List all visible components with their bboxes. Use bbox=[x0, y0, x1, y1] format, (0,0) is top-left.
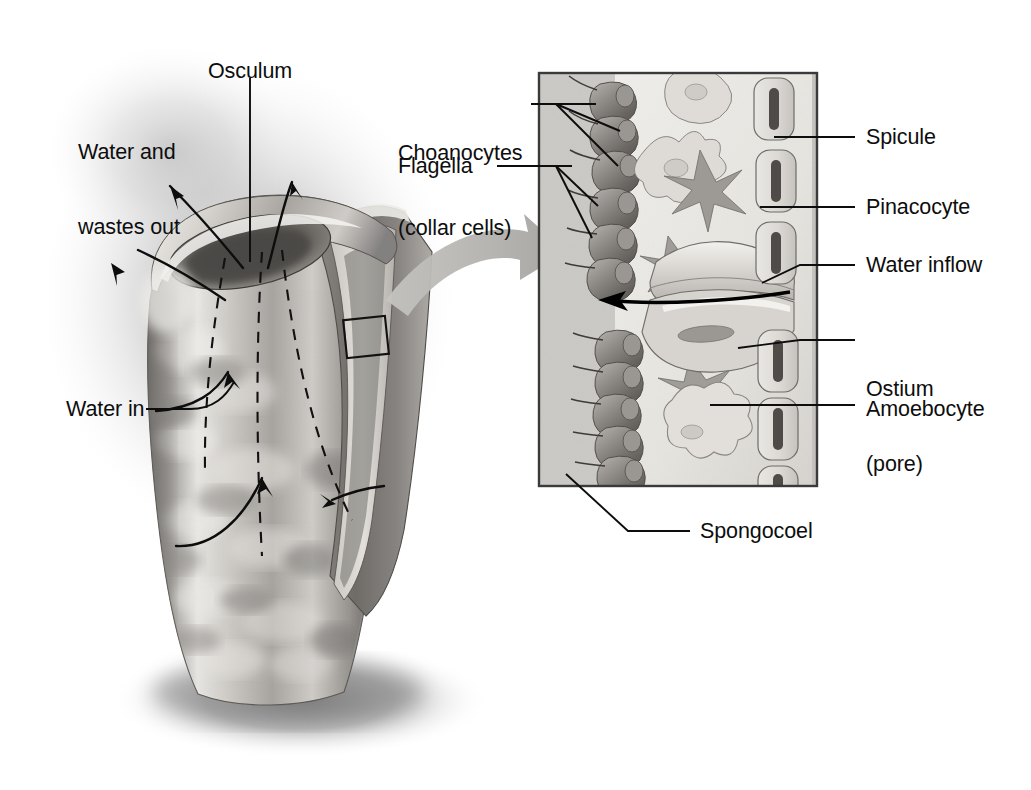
label-ostium-line2: (pore) bbox=[866, 452, 934, 477]
label-water-and-wastes-out: Water and wastes out bbox=[78, 90, 180, 290]
pinacocyte-cell bbox=[758, 398, 798, 460]
label-water-inflow: Water inflow bbox=[866, 252, 982, 278]
label-amoebocyte: Amoebocyte bbox=[866, 396, 985, 422]
label-water-and-wastes-out-line2: wastes out bbox=[78, 215, 180, 240]
label-pinacocyte: Pinacocyte bbox=[866, 194, 970, 220]
label-water-in: Water in bbox=[66, 396, 144, 422]
label-choanocytes: Choanocytes (collar cells) bbox=[398, 91, 522, 291]
spicule bbox=[773, 340, 783, 382]
figure-canvas: Osculum Water and wastes out Water in Ch… bbox=[0, 0, 1031, 790]
spicule bbox=[771, 232, 781, 274]
label-ostium: Ostium (pore) bbox=[866, 327, 934, 527]
label-osculum: Osculum bbox=[208, 58, 292, 84]
label-flagella: Flagella bbox=[398, 153, 473, 179]
pinacocyte-cell bbox=[756, 222, 796, 284]
inset-panel bbox=[539, 68, 817, 506]
pinacocyte-cell bbox=[758, 330, 798, 392]
spicule bbox=[773, 408, 783, 450]
pinacocyte-cell bbox=[756, 150, 796, 212]
label-spongocoel: Spongocoel bbox=[700, 518, 813, 544]
label-choanocytes-line2: (collar cells) bbox=[398, 216, 522, 241]
spicule bbox=[771, 160, 781, 202]
label-spicule: Spicule bbox=[866, 124, 936, 150]
spicule bbox=[769, 88, 779, 130]
pinacocyte-cell bbox=[754, 78, 794, 140]
spicule bbox=[773, 474, 783, 502]
label-water-and-wastes-out-line1: Water and bbox=[78, 140, 180, 165]
sponge-body bbox=[140, 195, 432, 710]
